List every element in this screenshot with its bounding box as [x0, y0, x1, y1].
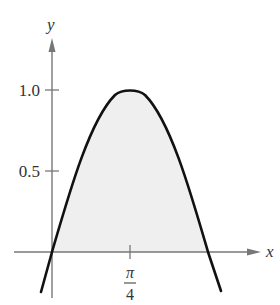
x-tick-label-4: 4: [126, 286, 134, 303]
x-axis-arrow-icon: [247, 249, 261, 256]
y-axis-arrow-icon: [49, 38, 56, 52]
y-axis-label: y: [45, 15, 55, 34]
chart-figure: y x 1.0 0.5 π 4: [0, 0, 280, 305]
y-tick-label-1-0: 1.0: [19, 81, 40, 100]
x-axis-label: x: [265, 242, 274, 261]
shaded-region: [52, 91, 208, 253]
x-tick-label-pi: π: [126, 264, 135, 281]
y-tick-label-0-5: 0.5: [19, 162, 40, 181]
